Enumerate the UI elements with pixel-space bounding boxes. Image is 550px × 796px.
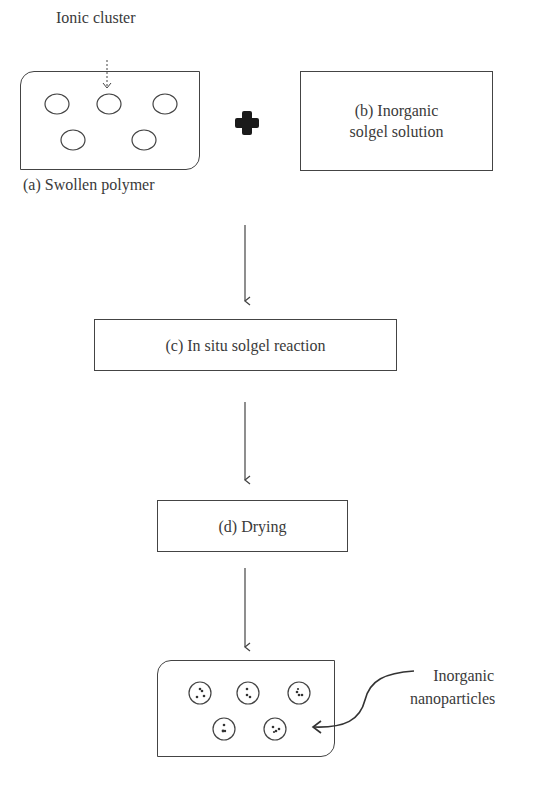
- ionic-cluster-pointer-icon: [103, 60, 111, 88]
- ionic-cluster-icons: [45, 94, 177, 150]
- nanoparticles-curved-arrow-icon: [313, 671, 414, 733]
- nanoparticle-cluster-icons: [189, 682, 310, 740]
- diagram-graphics: [0, 0, 550, 796]
